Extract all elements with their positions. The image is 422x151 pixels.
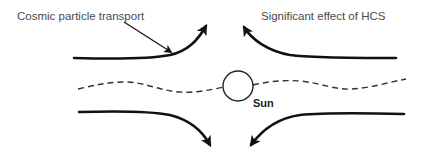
sun-label: Sun [253, 97, 274, 109]
sun-icon [223, 71, 253, 101]
flow-line-upper-left [74, 26, 206, 59]
current-sheet-right [253, 79, 406, 89]
pointer-arrow-icon [124, 22, 171, 52]
current-sheet-left [78, 82, 224, 92]
cosmic-transport-label: Cosmic particle transport [17, 10, 145, 22]
hcs-effect-label: Significant effect of HCS [261, 10, 386, 22]
flow-line-upper-right [244, 27, 396, 58]
flow-line-lower-right [251, 113, 404, 145]
heliosphere-diagram: Cosmic particle transport Significant ef… [0, 0, 422, 151]
flow-line-lower-left [79, 111, 210, 145]
